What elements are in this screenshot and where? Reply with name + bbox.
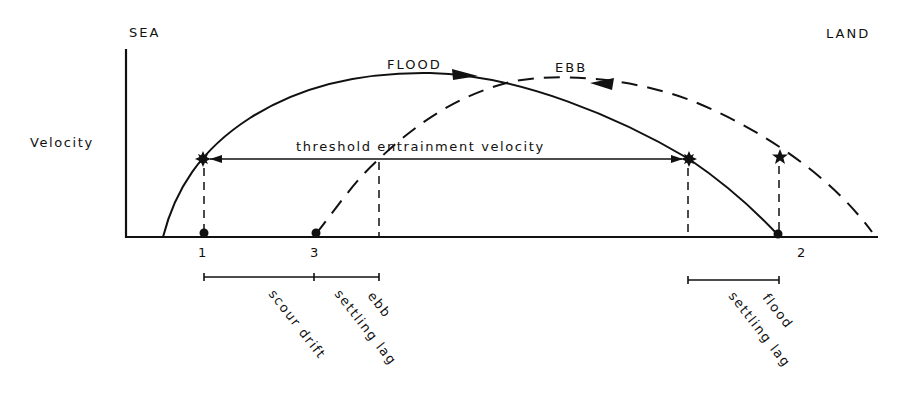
- threshold-label: threshold entrainment velocity: [296, 139, 545, 154]
- point-1-label: 1: [198, 245, 206, 260]
- interval-bars: [204, 273, 779, 284]
- point-3-dot: [312, 229, 321, 238]
- ebb-settling-lag-label-line1: ebb: [365, 289, 395, 321]
- point-2-dot: [774, 230, 783, 239]
- y-axis-label: Velocity: [30, 135, 94, 150]
- sea-label: SEA: [129, 25, 160, 40]
- threshold-arrow-left-icon: [210, 155, 222, 163]
- point-1-dot: [200, 229, 209, 238]
- star-icon: [772, 149, 788, 164]
- point-2-label: 2: [797, 245, 805, 260]
- drop-lines: [204, 162, 779, 237]
- flood-arrow-icon: [452, 69, 478, 80]
- point-3-label: 3: [310, 245, 318, 260]
- settling-lag-diagram: SEA LAND Velocity FLOOD EBB threshold en…: [0, 0, 902, 394]
- land-label: LAND: [826, 26, 870, 41]
- ebb-label: EBB: [555, 60, 587, 75]
- ebb-curve: [316, 77, 872, 234]
- flood-label: FLOOD: [387, 57, 442, 72]
- scour-drift-label: scour drift: [266, 287, 329, 362]
